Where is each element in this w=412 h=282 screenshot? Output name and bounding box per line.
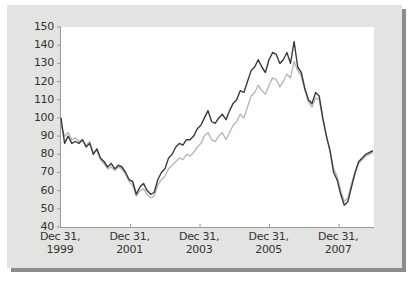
series-line <box>61 42 373 206</box>
x-tick-label-date: Dec 31, <box>30 230 90 243</box>
y-tick-label: 50 <box>20 203 54 215</box>
x-tick-label: Dec 31,1999 <box>30 230 90 256</box>
x-tick-label-date: Dec 31, <box>169 230 229 243</box>
y-tick-label: 150 <box>20 21 54 33</box>
x-tick-label: Dec 31,2001 <box>100 230 160 256</box>
y-tick-label: 90 <box>20 130 54 142</box>
x-tick-label: Dec 31,2003 <box>169 230 229 256</box>
x-tick-label-date: Dec 31, <box>100 230 160 243</box>
plot-area <box>60 27 374 228</box>
line-chart <box>61 27 374 227</box>
y-tick-label: 140 <box>20 39 54 51</box>
x-tick-label: Dec 31,2007 <box>308 230 368 256</box>
x-tick-label-year: 2007 <box>308 243 368 256</box>
x-tick-label-year: 2003 <box>169 243 229 256</box>
x-tick-label-date: Dec 31, <box>308 230 368 243</box>
y-tick-label: 120 <box>20 76 54 88</box>
x-tick-label-year: 2005 <box>239 243 299 256</box>
y-tick-label: 60 <box>20 185 54 197</box>
y-tick-label: 110 <box>20 94 54 106</box>
y-tick-label: 100 <box>20 112 54 124</box>
x-tick-label: Dec 31,2005 <box>239 230 299 256</box>
y-tick-label: 70 <box>20 166 54 178</box>
y-tick-label: 80 <box>20 148 54 160</box>
x-tick-label-date: Dec 31, <box>239 230 299 243</box>
x-tick-label-year: 2001 <box>100 243 160 256</box>
y-tick-label: 130 <box>20 57 54 69</box>
x-tick-label-year: 1999 <box>30 243 90 256</box>
